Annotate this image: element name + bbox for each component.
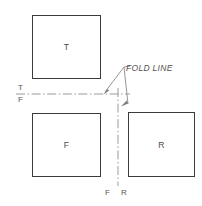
fold-line-diagram: T F R T F FOLD LINE F R (0, 0, 202, 206)
reference-label-top: T (18, 83, 23, 92)
top-view-box: T (32, 15, 101, 79)
reference-label-front: F (18, 95, 23, 104)
reference-label-right-bottom: R (121, 188, 127, 197)
fold-line-arrowhead-right (121, 101, 128, 107)
reference-label-front-bottom: F (105, 188, 110, 197)
top-view-label: T (64, 42, 70, 52)
fold-line-leader-left (105, 67, 124, 92)
right-view-box: R (128, 112, 195, 177)
front-view-box: F (32, 113, 101, 177)
fold-line-label: FOLD LINE (126, 63, 173, 73)
right-view-label: R (158, 140, 164, 150)
front-view-label: F (64, 140, 70, 150)
